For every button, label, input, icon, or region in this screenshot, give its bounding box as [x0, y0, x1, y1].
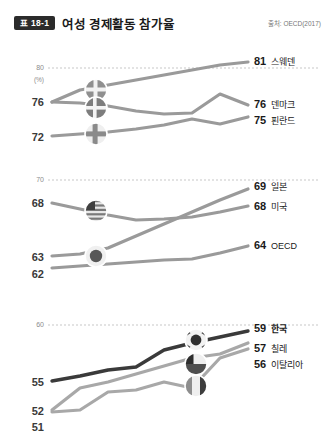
table-number-badge: 표 18-1: [14, 16, 55, 30]
gridline-label-80: 80: [36, 64, 44, 71]
panel-bottom: 60 55 52 51 59 한국 57 칠레 56 이탈리아: [32, 321, 318, 433]
panel-middle: 70 68 63 62 69 일본 68 미국 64 OECD: [32, 176, 318, 280]
start-label-top-72: 72: [32, 131, 44, 143]
start-label-mid-62: 62: [32, 268, 44, 280]
end-name-italy: 이탈리아: [271, 360, 304, 370]
gridline-label-60: 60: [36, 321, 44, 328]
end-name-oecd: OECD: [271, 241, 298, 251]
page-title: 여성 경제활동 참가율: [62, 14, 175, 33]
end-value-italy: 56: [254, 358, 266, 370]
marker-flag-italy: [184, 374, 208, 398]
end-name-chile: 칠레: [271, 344, 287, 354]
end-value-chile: 57: [254, 342, 266, 354]
series-line-oecd: [52, 246, 248, 268]
end-value-usa: 68: [254, 200, 266, 212]
chart-page: 표 18-1 여성 경제활동 참가율 출처: OECD(2017): [0, 0, 333, 435]
marker-flag-denmark: [84, 96, 108, 120]
end-value-denmark: 76: [254, 98, 266, 110]
series-line-korea: [52, 331, 248, 381]
end-value-oecd: 64: [254, 239, 267, 251]
gridline-label-70: 70: [36, 176, 44, 183]
end-value-japan: 69: [254, 180, 266, 192]
unit-label: (%): [34, 76, 44, 84]
start-label-mid-63: 63: [32, 251, 44, 263]
series-line-japan: [52, 189, 248, 256]
panel-top: 80 (%) 76 72 81 스웨덴 76 덴마크 75 핀란드: [32, 55, 318, 146]
end-name-korea: 한국: [271, 323, 288, 334]
end-name-denmark: 덴마크: [271, 100, 295, 110]
marker-flag-finland: [84, 122, 108, 146]
chart-header: 표 18-1 여성 경제활동 참가율 출처: OECD(2017): [0, 14, 333, 38]
marker-flag-korea: [185, 329, 207, 351]
series-line-usa: [52, 203, 248, 220]
end-value-sweden: 81: [254, 55, 266, 67]
marker-flag-usa: [84, 199, 108, 222]
end-name-finland: 핀란드: [271, 115, 295, 126]
source-attribution: 출처: OECD(2017): [268, 18, 321, 28]
end-name-sweden: 스웨덴: [271, 56, 295, 67]
chart-canvas: 80 (%) 76 72 81 스웨덴 76 덴마크 75 핀란드 70: [0, 40, 333, 435]
end-value-korea: 59: [254, 322, 266, 334]
start-label-bot-55: 55: [32, 376, 44, 388]
marker-flag-japan: [85, 245, 107, 267]
end-name-japan: 일본: [271, 182, 287, 192]
end-value-finland: 75: [254, 114, 266, 126]
start-label-bot-52: 52: [32, 405, 44, 417]
series-line-denmark: [52, 94, 248, 114]
end-name-usa: 미국: [271, 202, 287, 212]
start-label-top-76: 76: [32, 96, 44, 108]
start-label-mid-68: 68: [32, 197, 44, 209]
start-label-bot-51: 51: [32, 421, 44, 433]
series-line-finland: [52, 117, 248, 136]
